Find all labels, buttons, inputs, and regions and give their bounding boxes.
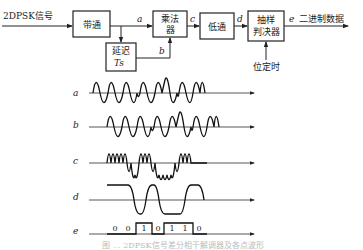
svg-text:0: 0	[125, 224, 130, 233]
waveform-d	[107, 185, 204, 214]
delay-block: 延迟 Ts	[106, 43, 136, 71]
svg-text:判决器: 判决器	[253, 26, 280, 37]
wave-a-label: a	[73, 88, 78, 98]
wave-d-label: d	[73, 192, 79, 202]
figure-caption: 图 ... 2DPSK信号差分相干解调器及各点波形	[102, 240, 263, 250]
svg-text:低通: 低通	[208, 21, 226, 32]
output-label: 二进制数据	[299, 13, 344, 24]
waveform-b	[107, 112, 219, 137]
sampler-decision-block: 抽样 判决器	[248, 11, 284, 41]
svg-text:乘法: 乘法	[161, 13, 179, 24]
timing-label: 位定时	[253, 61, 280, 72]
svg-text:1: 1	[141, 224, 146, 233]
svg-text:器: 器	[166, 25, 175, 35]
svg-text:0: 0	[112, 224, 117, 233]
svg-text:带通: 带通	[83, 20, 101, 30]
wave-e-label: e	[73, 226, 78, 236]
svg-text:Ts: Ts	[114, 58, 124, 68]
node-d-label: d	[237, 14, 243, 24]
wave-b-label: b	[73, 120, 79, 130]
lowpass-block: 低通	[200, 13, 234, 39]
input-label: 2DPSK信号	[3, 10, 53, 21]
svg-text:1: 1	[182, 224, 187, 233]
bandpass-block: 带通	[73, 11, 110, 37]
svg-text:1: 1	[169, 224, 174, 233]
waveform-c	[107, 154, 207, 180]
svg-text:0: 0	[196, 224, 201, 233]
node-a-label: a	[137, 14, 142, 24]
bit-sequence: 0 0 1 0 1 1 0	[112, 224, 201, 233]
svg-text:0: 0	[155, 224, 160, 233]
signal-b-arrow	[136, 38, 170, 58]
node-e-label: e	[289, 14, 294, 24]
wave-c-label: c	[73, 156, 78, 166]
demodulator-diagram: 2DPSK信号 带通 a 延迟 Ts b 乘法 器 c 低通 d 抽样 判决器	[0, 0, 363, 250]
multiplier-block: 乘法 器	[153, 11, 187, 37]
svg-text:抽样: 抽样	[257, 14, 275, 25]
svg-text:延迟: 延迟	[112, 45, 130, 56]
waveform-a	[93, 78, 205, 103]
node-b-label: b	[159, 46, 165, 56]
node-c-label: c	[190, 14, 195, 24]
